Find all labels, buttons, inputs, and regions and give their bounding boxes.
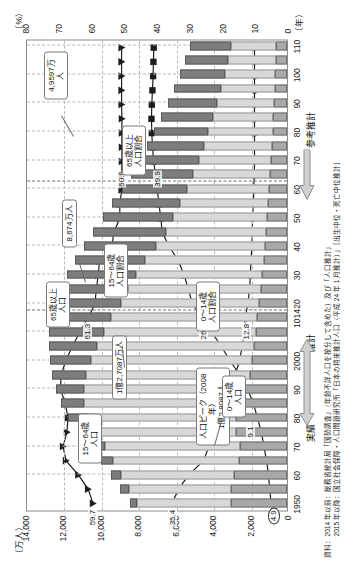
bar-segment bbox=[49, 341, 97, 350]
period-label-reference: 参考推計 bbox=[304, 111, 317, 147]
bar-column bbox=[154, 127, 287, 136]
bar-column bbox=[61, 398, 287, 407]
x-axis-tick: 100 bbox=[292, 64, 302, 86]
bar-segment bbox=[145, 255, 264, 264]
period-arrow-reference bbox=[298, 149, 316, 199]
pct-marker bbox=[90, 499, 97, 507]
bar-segment bbox=[252, 355, 287, 364]
pct-marker bbox=[118, 58, 125, 66]
population-chart: （万人） （%） （年） 02,0004,0006,0008,00010,000… bbox=[0, 0, 364, 563]
bar-segment bbox=[190, 41, 231, 50]
bar-column bbox=[168, 98, 287, 107]
bar-segment bbox=[147, 141, 204, 150]
bar-segment bbox=[136, 270, 263, 279]
bar-segment bbox=[154, 127, 208, 136]
bar-segment bbox=[269, 184, 287, 193]
rotated-chart-wrapper: （万人） （%） （年） 02,0004,0006,0008,00010,000… bbox=[0, 0, 364, 563]
bar-column bbox=[112, 198, 287, 207]
pct-marker bbox=[85, 485, 92, 493]
y-axis-right-tick: 40 bbox=[152, 24, 162, 33]
bar-column bbox=[103, 212, 287, 221]
bar-segment bbox=[275, 69, 287, 78]
bar-column bbox=[49, 341, 287, 350]
bar-segment bbox=[112, 198, 180, 207]
bar-segment bbox=[139, 155, 198, 164]
bar-segment bbox=[240, 441, 287, 450]
bar-segment bbox=[217, 98, 274, 107]
bar-segment bbox=[276, 55, 287, 64]
bar-column bbox=[78, 427, 287, 436]
plot-area bbox=[26, 39, 288, 511]
bar-segment bbox=[104, 327, 256, 336]
x-axis-tick: 30 bbox=[292, 264, 302, 286]
bar-segment bbox=[261, 284, 287, 293]
bar-segment bbox=[113, 456, 239, 465]
bar-segment bbox=[180, 198, 268, 207]
value-label: 35.4 bbox=[168, 508, 177, 526]
pct-marker bbox=[119, 115, 126, 123]
bar-segment bbox=[174, 84, 221, 93]
x-axis-tick: 60 bbox=[292, 464, 302, 486]
bar-segment bbox=[259, 298, 287, 307]
annotation-work-2060: 8,674万人 bbox=[62, 199, 77, 247]
label-elderly-population: 65歳以上 人口 bbox=[46, 281, 70, 327]
bar-column bbox=[139, 155, 287, 164]
bar-segment bbox=[185, 55, 228, 64]
label-working-population: 15〜64歳 人口 bbox=[78, 413, 102, 463]
bar-segment bbox=[273, 112, 287, 121]
bar-segment bbox=[225, 69, 276, 78]
x-axis-tick: 40 bbox=[292, 235, 302, 257]
bar-segment bbox=[120, 484, 129, 493]
annotation-pop-2110: 4,9597万人 bbox=[44, 51, 68, 99]
bar-segment bbox=[275, 84, 287, 93]
gridline-horizontal bbox=[64, 40, 65, 510]
bar-segment bbox=[213, 112, 274, 121]
bar-column bbox=[101, 456, 287, 465]
x-axis-unit: （年） bbox=[292, 8, 304, 35]
bar-segment bbox=[128, 284, 261, 293]
bar-segment bbox=[101, 456, 113, 465]
bar-column bbox=[174, 84, 287, 93]
y-axis-left-tick: 2,000 bbox=[246, 515, 256, 559]
bar-segment bbox=[49, 327, 104, 336]
bar-column bbox=[147, 141, 287, 150]
period-label-actual: 実績 bbox=[304, 423, 317, 441]
bar-segment bbox=[52, 370, 86, 379]
bar-segment bbox=[103, 212, 174, 221]
y-axis-left-tick: 4,000 bbox=[208, 515, 218, 559]
label-elderly-ratio: 65歳以上 人口割合 bbox=[122, 125, 146, 175]
bar-column bbox=[120, 484, 287, 493]
y-axis-right-tick: 60 bbox=[87, 24, 97, 33]
period-arrow-actual-estimate bbox=[298, 339, 316, 425]
value-label: 59.7 bbox=[88, 508, 97, 526]
label-young-population: 0〜14歳 人口 bbox=[222, 375, 246, 417]
bar-column bbox=[54, 298, 287, 307]
bar-column bbox=[50, 355, 287, 364]
bar-segment bbox=[129, 484, 231, 493]
y-axis-right-tick: 80 bbox=[21, 24, 31, 33]
x-axis-tick: 90 bbox=[292, 92, 302, 114]
y-axis-left-tick: 8,000 bbox=[133, 515, 143, 559]
bar-column bbox=[180, 69, 287, 78]
x-axis-tick: 1950 bbox=[292, 493, 302, 515]
bar-segment bbox=[236, 427, 287, 436]
bar-segment bbox=[221, 84, 275, 93]
bar-column bbox=[190, 41, 287, 50]
bar-column bbox=[56, 384, 287, 393]
bar-segment bbox=[166, 227, 266, 236]
bar-segment bbox=[257, 312, 287, 321]
bar-segment bbox=[137, 498, 231, 507]
bar-segment bbox=[270, 169, 287, 178]
pct-marker bbox=[150, 58, 156, 64]
bar-column bbox=[122, 184, 287, 193]
bar-column bbox=[91, 441, 287, 450]
value-label: 61.3 bbox=[83, 322, 92, 340]
bar-segment bbox=[187, 184, 270, 193]
value-label: 12.8 bbox=[242, 322, 251, 340]
y-axis-left-tick: 14,000 bbox=[21, 515, 31, 559]
bar-column bbox=[93, 227, 287, 236]
bar-segment bbox=[265, 241, 287, 250]
bar-segment bbox=[231, 498, 287, 507]
bar-column bbox=[67, 270, 287, 279]
bar-segment bbox=[266, 227, 287, 236]
